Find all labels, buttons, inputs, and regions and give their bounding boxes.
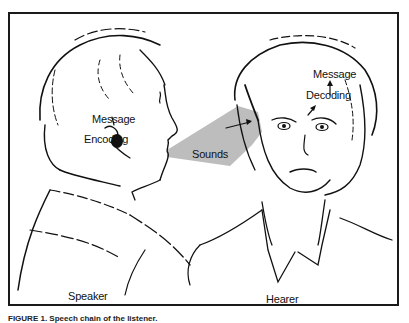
speaker-message-label: Message bbox=[92, 113, 135, 125]
sounds-label: Sounds bbox=[192, 148, 228, 160]
decoding-label: Decoding bbox=[306, 89, 351, 101]
hearer-label: Hearer bbox=[266, 293, 298, 305]
speaker-label: Speaker bbox=[68, 290, 108, 302]
hearer-message-label: Message bbox=[313, 68, 356, 80]
figure-caption: FIGURE 1. Speech chain of the listener. bbox=[8, 314, 157, 323]
encoding-label: Encoding bbox=[84, 133, 128, 145]
